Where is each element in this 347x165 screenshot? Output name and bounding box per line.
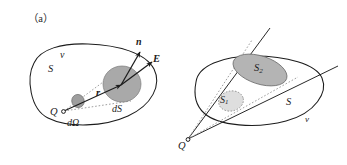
label-region-s1: S1 <box>220 95 228 106</box>
label-surface-s-b: S <box>286 97 291 108</box>
label-solid-angle: dΩ <box>67 118 79 128</box>
label-surface-s-a: S <box>48 64 53 75</box>
point-charge-dot <box>62 110 66 114</box>
label-charge-q-a: Q <box>50 107 58 118</box>
label-region-s1-subscript: 1 <box>225 98 228 105</box>
label-volume-v-b: v <box>305 115 309 124</box>
panel-a: （a） v S <box>0 0 173 165</box>
figure-container: （a） v S <box>0 0 347 165</box>
panel-b-drawing <box>174 0 347 165</box>
label-normal-vector: n <box>136 37 142 47</box>
label-radius-vector: r <box>96 88 100 99</box>
panel-b: （b） S1 S2 S v Q <box>174 0 347 165</box>
label-field-vector: E <box>153 54 160 65</box>
label-area-element: dS <box>112 104 122 114</box>
label-volume-v-a: v <box>60 50 64 60</box>
label-charge-q-b: Q <box>178 141 186 152</box>
cone-edge-dotted-2 <box>188 77 298 139</box>
panel-a-drawing <box>0 0 173 165</box>
point-charge-dot-b <box>186 138 190 142</box>
label-region-s2: S2 <box>254 63 263 75</box>
label-region-s2-subscript: 2 <box>259 67 263 75</box>
